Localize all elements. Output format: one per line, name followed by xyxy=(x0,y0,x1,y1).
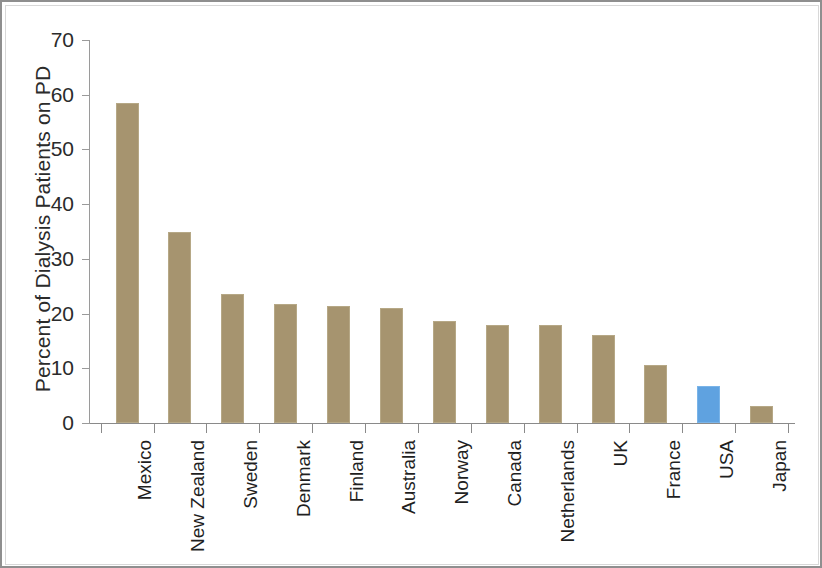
x-axis-tick xyxy=(418,424,419,433)
bar xyxy=(221,294,244,423)
x-axis-tick xyxy=(629,424,630,433)
bar xyxy=(539,325,562,423)
x-axis-tick xyxy=(788,424,789,433)
y-axis-tick: 50 xyxy=(82,149,90,150)
x-axis-tick xyxy=(154,424,155,433)
x-axis-tick-label: UK xyxy=(610,440,632,466)
x-axis-tick xyxy=(471,424,472,433)
x-axis-tick xyxy=(682,424,683,433)
x-axis-tick-label: Netherlands xyxy=(557,440,579,542)
x-axis-tick-label: Finland xyxy=(346,440,368,502)
x-axis-tick xyxy=(259,424,260,433)
y-axis-line xyxy=(89,40,90,424)
y-axis-tick: 0 xyxy=(82,423,90,424)
bar xyxy=(486,325,509,423)
x-axis-tick-label: Japan xyxy=(769,440,791,492)
x-axis-tick-label: Sweden xyxy=(240,440,262,509)
x-axis-labels: MexicoNew ZealandSwedenDenmarkFinlandAus… xyxy=(89,440,795,565)
x-axis-line xyxy=(89,423,795,424)
x-axis-tick-label: New Zealand xyxy=(187,440,209,552)
chart-page: Percent of Dialysis Patients on PD 70605… xyxy=(0,0,822,568)
bar xyxy=(116,103,139,423)
bar xyxy=(168,232,191,424)
y-axis-tick: 70 xyxy=(82,40,90,41)
y-axis-tick-label: 20 xyxy=(51,302,74,326)
y-axis-tick: 10 xyxy=(82,368,90,369)
x-axis-tick-label: Canada xyxy=(504,440,526,507)
x-axis-tick xyxy=(312,424,313,433)
x-axis-tick xyxy=(206,424,207,433)
y-axis-tick: 60 xyxy=(82,95,90,96)
bar xyxy=(380,308,403,423)
x-axis-tick xyxy=(735,424,736,433)
bar xyxy=(697,386,720,423)
x-axis-tick-label: France xyxy=(663,440,685,499)
x-axis-tick xyxy=(524,424,525,433)
x-axis-tick-label: USA xyxy=(716,440,738,479)
y-axis-tick: 20 xyxy=(82,314,90,315)
x-axis-tick-label: Mexico xyxy=(134,440,156,500)
x-axis-tick-label: Denmark xyxy=(293,440,315,517)
x-axis-tick xyxy=(577,424,578,433)
y-axis-tick: 30 xyxy=(82,259,90,260)
plot-area: 706050403020100 xyxy=(89,40,795,424)
y-axis-tick-label: 40 xyxy=(51,192,74,216)
y-axis-tick-label: 70 xyxy=(51,28,74,52)
x-axis-tick-label: Australia xyxy=(398,440,420,514)
y-axis-title: Percent of Dialysis Patients on PD xyxy=(31,59,55,399)
x-axis-tick xyxy=(101,424,102,433)
y-axis-tick-label: 50 xyxy=(51,137,74,161)
x-axis-tick xyxy=(365,424,366,433)
y-axis-tick-label: 60 xyxy=(51,83,74,107)
y-axis-tick-label: 10 xyxy=(51,356,74,380)
y-axis-tick: 40 xyxy=(82,204,90,205)
bar xyxy=(750,406,773,424)
x-axis-tick-label: Norway xyxy=(451,440,473,504)
bar xyxy=(644,365,667,423)
y-axis-tick-label: 30 xyxy=(51,247,74,271)
bar xyxy=(433,321,456,423)
y-axis-tick-label: 0 xyxy=(62,411,74,435)
bar xyxy=(327,306,350,423)
bar xyxy=(274,304,297,423)
bar xyxy=(592,335,615,423)
